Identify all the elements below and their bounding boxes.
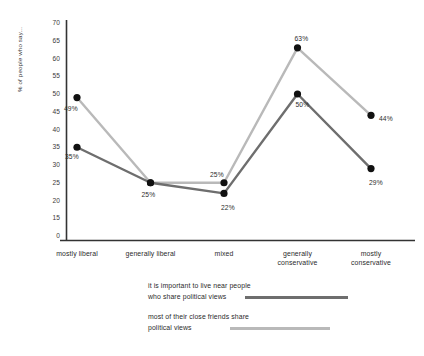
x-category-label-line: conservative [334,258,408,267]
data-point-marker [220,190,227,197]
data-value-label: 50% [296,101,310,108]
data-point-marker [367,112,374,119]
x-category-label-0: mostly liberal [40,249,114,258]
data-point-marker [73,94,80,101]
data-series-layer [77,48,371,194]
data-point-marker [367,165,374,172]
data-value-label: 44% [379,115,393,122]
x-category-label-line: generally [261,249,335,258]
data-value-label: 49% [64,105,78,112]
data-value-label: 29% [369,179,383,186]
data-value-label: 25% [210,171,224,178]
series-line-0 [77,94,371,193]
data-point-marker [147,179,154,186]
data-value-label: 22% [221,204,235,211]
series-line-1 [77,48,371,183]
legend-label-important-live-near: it is important to live near people who … [148,281,378,302]
x-category-label-line: conservative [261,258,335,267]
data-point-marker [220,179,227,186]
line-chart: % of people who say... 70656055504540353… [0,0,424,356]
x-category-label-line: mostly liberal [40,249,114,258]
legend: it is important to live near people who … [148,281,378,343]
legend-swatch-important-live-near [245,296,348,299]
x-category-label-2: mixed [187,249,261,258]
axis-lines [60,20,415,241]
x-category-label-3: generallyconservative [261,249,335,267]
data-point-marker [73,144,80,151]
x-category-label-line: mixed [187,249,261,258]
data-point-marker [294,44,301,51]
x-category-label-4: mostlyconservative [334,249,408,267]
x-category-label-line: generally liberal [114,249,188,258]
data-value-label: 35% [65,153,79,160]
legend-entry-close-friends-share: most of their close friends share politi… [148,312,378,333]
legend-label-close-friends-share: most of their close friends share politi… [148,312,378,333]
data-point-markers [73,44,374,197]
legend-entry-important-live-near: it is important to live near people who … [148,281,378,302]
legend-swatch-close-friends-share [230,327,330,330]
x-category-label-line: mostly [334,249,408,258]
data-value-label: 25% [142,191,156,198]
x-category-label-1: generally liberal [114,249,188,258]
data-value-label: 63% [295,35,309,42]
data-point-marker [294,90,301,97]
